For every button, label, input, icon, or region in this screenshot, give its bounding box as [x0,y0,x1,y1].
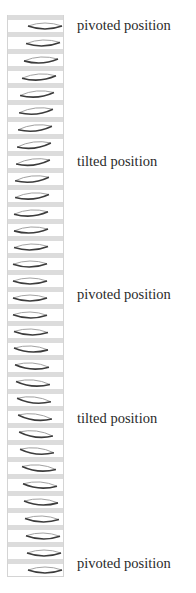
lens-ellipse-icon [27,566,63,574]
strip-row [8,253,63,270]
lens-ellipse-icon [23,55,59,65]
lens-ellipse-icon [13,242,49,251]
lens-ellipse-icon [12,311,48,320]
row-band [8,542,63,547]
lens-strip [7,15,64,577]
row-band [8,15,63,20]
row-band [8,423,63,428]
row-band [8,117,63,122]
lens-ellipse-icon [16,139,53,151]
lens-ellipse-icon [22,480,58,490]
row-band [8,525,63,530]
row-band [8,270,63,275]
strip-row [8,185,63,202]
lens-ellipse-icon [14,361,50,371]
lens-ellipse-icon [12,294,48,302]
strip-row [8,457,63,474]
lens-ellipse-icon [13,327,49,336]
row-band [8,406,63,411]
lens-ellipse-icon [14,190,51,201]
strip-row [8,525,63,542]
row-band [8,287,63,292]
row-band [8,338,63,343]
strip-row [8,202,63,219]
lens-ellipse-icon [25,38,61,47]
row-band [8,372,63,377]
row-band [8,253,63,258]
row-band [8,559,63,564]
strip-row [8,32,63,49]
lens-ellipse-icon [13,225,49,235]
row-band [8,32,63,37]
strip-row [8,117,63,134]
lens-ellipse-icon [19,445,56,457]
position-label: pivoted position [77,18,171,33]
strip-row [8,338,63,355]
strip-row [8,236,63,253]
strip-row [8,406,63,423]
lens-ellipse-icon [15,156,52,168]
row-band [8,491,63,496]
position-label: tilted position [77,411,157,426]
row-band [8,134,63,139]
strip-row [8,100,63,117]
row-band [8,219,63,224]
row-band [8,151,63,156]
position-label: pivoted position [77,556,171,571]
row-band [8,185,63,190]
strip-row [8,508,63,525]
row-band [8,440,63,445]
lens-ellipse-icon [21,462,58,473]
strip-row [8,355,63,372]
strip-row [8,389,63,406]
row-band [8,66,63,71]
lens-ellipse-icon [13,208,49,218]
lens-ellipse-icon [15,377,52,388]
strip-row [8,321,63,338]
strip-row [8,270,63,287]
lens-ellipse-icon [14,173,51,185]
strip-row [8,219,63,236]
row-band [8,355,63,360]
row-band [8,100,63,105]
row-band [8,202,63,207]
row-band [8,321,63,326]
strip-row [8,542,63,559]
lens-ellipse-icon [26,549,62,557]
strip-row [8,151,63,168]
lens-ellipse-icon [19,88,56,99]
row-band [8,457,63,462]
lens-ellipse-icon [24,514,60,523]
strip-row [8,304,63,321]
strip-row [8,440,63,457]
lens-ellipse-icon [17,411,54,423]
strip-row [8,83,63,100]
strip-row [8,372,63,389]
strip-row [8,15,63,32]
strip-row [8,168,63,185]
lens-ellipse-icon [18,428,55,440]
lens-ellipse-icon [18,105,55,117]
strip-row [8,559,63,576]
row-band [8,168,63,173]
row-band [8,236,63,241]
lens-ellipse-icon [21,72,57,82]
position-label: tilted position [77,154,157,169]
row-band [8,83,63,88]
lens-ellipse-icon [23,497,59,507]
row-band [8,508,63,513]
lens-ellipse-icon [16,394,53,406]
strip-row [8,423,63,440]
strip-row [8,491,63,508]
row-band [8,304,63,309]
row-band [8,474,63,479]
strip-row [8,287,63,304]
strip-row [8,474,63,491]
strip-row [8,134,63,151]
strip-row [8,66,63,83]
position-label: pivoted position [77,287,171,302]
strip-row [8,49,63,66]
lens-ellipse-icon [25,532,61,541]
row-band [8,49,63,54]
lens-ellipse-icon [13,344,49,354]
